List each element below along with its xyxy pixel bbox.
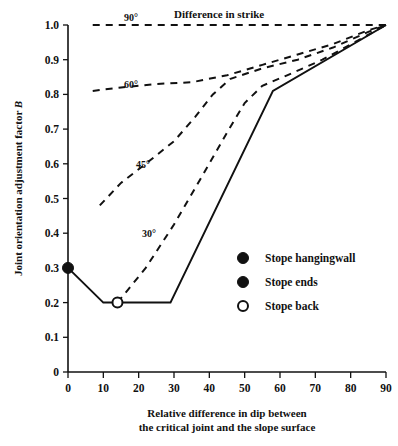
x-tick-label: 80 [345,382,357,394]
y-tick-label: 0 [53,366,59,378]
legend-marker-1 [238,277,249,288]
curve-labels: 90° 60° 45° 30° [124,12,156,239]
x-tick-label: 40 [204,382,216,394]
y-axis-caption-plain: Joint orientation adjustment factor [12,108,24,276]
stope-hangingwall-point [63,262,74,273]
series-45-curve [100,25,386,205]
curve-label-30: 30° [142,228,156,239]
x-tick-label: 0 [65,382,71,394]
x-tick-label: 60 [274,382,286,394]
y-tick-label: 0.2 [45,297,60,309]
chart-figure: 00.10.20.30.40.50.60.70.80.91.0 01020304… [0,0,398,446]
legend-marker-0 [238,253,249,264]
legend-label-2: Stope back [265,300,320,313]
y-tick-label: 0.6 [45,158,60,170]
x-axis-ticks: 0102030405060708090 [65,372,392,394]
y-tick-label: 1.0 [45,19,60,31]
x-tick-label: 90 [380,382,392,394]
data-point-markers [63,262,123,307]
y-tick-label: 0.9 [45,54,60,66]
y-tick-label: 0.5 [45,193,60,205]
x-axis-caption-line2: the critical joint and the slope surface [139,421,316,433]
x-tick-label: 20 [133,382,145,394]
y-axis-caption-text: Joint orientation adjustment factor B [12,101,24,276]
x-axis-caption: Relative difference in dip between the c… [139,407,316,433]
curve-label-90: 90° [124,12,138,23]
x-axis-caption-line1: Relative difference in dip between [147,407,306,419]
difference-in-strike-annotation: Difference in strike [174,8,264,20]
y-tick-label: 0.1 [45,331,60,343]
chart-legend: Stope hangingwallStope endsStope back [238,252,356,313]
legend-label-1: Stope ends [265,276,318,289]
curve-label-60: 60° [124,79,138,90]
legend-label-0: Stope hangingwall [265,252,355,265]
axes [68,25,386,372]
x-tick-label: 50 [239,382,251,394]
y-axis-caption: Joint orientation adjustment factor B [12,101,24,276]
x-tick-label: 10 [98,382,110,394]
y-tick-label: 0.4 [45,227,60,239]
x-tick-label: 30 [168,382,180,394]
y-axis-ticks: 00.10.20.30.40.50.60.70.80.91.0 [45,19,68,378]
legend-marker-2 [238,301,248,311]
joint-orientation-adjustment-chart: 00.10.20.30.40.50.60.70.80.91.0 01020304… [0,0,398,446]
x-tick-label: 70 [310,382,322,394]
y-tick-label: 0.3 [45,262,60,274]
y-tick-label: 0.7 [45,123,60,135]
stope-back-point [112,298,122,308]
y-tick-label: 0.8 [45,88,60,100]
curve-label-45: 45° [136,159,150,170]
y-axis-caption-italic: B [12,101,24,109]
